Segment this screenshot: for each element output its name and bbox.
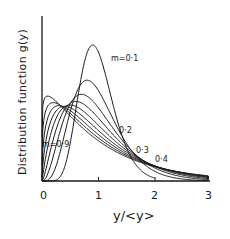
x-axis-title: y/<y> [113,208,155,223]
y-axis-title: Distribution function g(y) [16,29,29,175]
annotation-m02: 0·2 [119,126,132,135]
x-tick-label-0: 0 [40,189,47,202]
curve-m03 [42,94,208,181]
x-tick-label-1: 1 [95,189,102,202]
annotation-m09: m=0·9 [42,140,69,149]
curve-family [42,45,208,181]
annotation-m04: 0·4 [155,155,168,164]
x-tick-label-3: 3 [205,189,212,202]
x-tick-label-2: 2 [151,189,158,202]
annotation-m01: m=0·1 [111,54,138,63]
distribution-chart: Distribution function g(y) 0 1 2 3 y/<y>… [0,0,230,239]
annotation-m03: 0·3 [136,146,149,155]
